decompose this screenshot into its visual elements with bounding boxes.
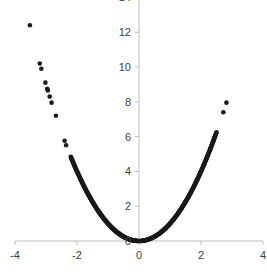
y-tick-label: 14	[119, 0, 131, 3]
data-point	[64, 143, 69, 148]
data-point	[205, 154, 210, 159]
tick-labels: -4-202402468101214	[10, 0, 266, 261]
data-point	[38, 61, 43, 66]
data-point	[39, 66, 44, 71]
y-tick-label: 12	[119, 26, 131, 38]
data-point	[224, 100, 229, 105]
data-point	[49, 100, 54, 105]
x-tick-label: -4	[10, 249, 20, 261]
data-point	[47, 94, 52, 99]
data-point	[208, 146, 213, 151]
data-point	[46, 88, 51, 93]
scatter-chart: -4-202402468101214	[0, 0, 267, 272]
y-tick-label: 6	[125, 131, 131, 143]
data-point	[43, 80, 48, 85]
y-tick-label: 8	[125, 96, 131, 108]
y-tick-label: 0	[125, 235, 131, 247]
x-tick-label: 2	[198, 249, 204, 261]
axes	[15, 0, 263, 245]
x-tick-label: 4	[260, 249, 266, 261]
x-tick-label: 0	[136, 249, 142, 261]
data-point	[214, 130, 219, 135]
data-point	[202, 162, 207, 167]
y-tick-label: 4	[125, 165, 131, 177]
data-point	[213, 134, 218, 139]
x-tick-label: -2	[72, 249, 82, 261]
data-point	[54, 113, 59, 118]
data-point	[28, 23, 33, 28]
data-point	[62, 138, 67, 143]
y-tick-label: 10	[119, 61, 131, 73]
data-point	[221, 110, 226, 115]
y-tick-label: 2	[125, 200, 131, 212]
